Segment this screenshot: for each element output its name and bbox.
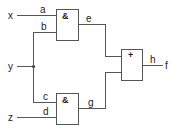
wire-g bbox=[79, 73, 122, 109]
logic-circuit-diagram: x a y b c z d & & e g + h f bbox=[0, 0, 180, 132]
wire-label-e: e bbox=[86, 13, 92, 24]
wire-label-g: g bbox=[88, 97, 94, 108]
wire-b bbox=[34, 33, 57, 67]
and-gate-bottom-symbol: & bbox=[62, 95, 69, 105]
wire-label-d: d bbox=[43, 106, 49, 117]
output-label-f: f bbox=[165, 60, 168, 71]
wire-label-h: h bbox=[150, 54, 156, 65]
wire-e bbox=[79, 25, 122, 57]
input-label-z: z bbox=[8, 112, 13, 123]
and-gate-top-symbol: & bbox=[62, 11, 69, 21]
input-label-x: x bbox=[8, 10, 13, 21]
wire-label-c: c bbox=[43, 91, 48, 102]
wire-label-a: a bbox=[40, 4, 46, 15]
input-label-y: y bbox=[8, 61, 13, 72]
or-gate-symbol: + bbox=[128, 50, 133, 60]
wire-label-b: b bbox=[41, 21, 47, 32]
